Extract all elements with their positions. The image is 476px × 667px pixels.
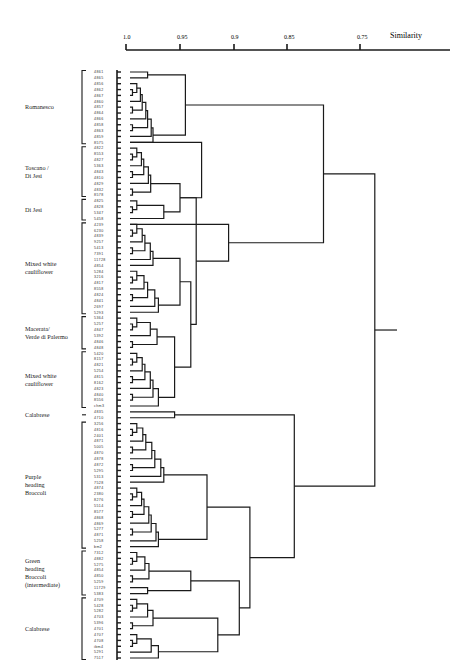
group-label: Purple: [25, 473, 41, 480]
leaf-label: 5396: [94, 621, 104, 625]
leaf-label: 5005: [94, 445, 104, 449]
group-label: Romanesco: [25, 103, 54, 110]
tree-branch: [130, 72, 148, 78]
leaf-label: 4869: [94, 522, 104, 526]
leaf-label: 6230: [94, 229, 104, 233]
leaf-label: 4703: [94, 615, 104, 619]
leaf-label: 5383: [94, 592, 104, 596]
axis-title: Similarity: [390, 31, 422, 40]
tree-branch: [130, 599, 137, 608]
group-bracket: [82, 317, 86, 349]
tree-branch: [130, 189, 132, 195]
leaf-label: 2401: [94, 434, 104, 438]
tree-branch: [130, 512, 132, 518]
tree-branch: [130, 529, 132, 535]
group-label: Calabrese: [25, 625, 50, 632]
leaf-label: 5347: [94, 211, 104, 215]
tree-branch: [132, 564, 148, 579]
group-label: heading: [25, 481, 45, 488]
leaf-label: 4862: [94, 88, 104, 92]
leaf-label: 4864: [94, 111, 104, 115]
axis-tick-label: 0.75: [357, 34, 368, 40]
leaf-label: 4857: [94, 105, 104, 109]
leaf-label: chm3: [94, 404, 104, 408]
leaf-label: 4824: [94, 293, 104, 297]
tree-branch: [132, 364, 144, 379]
tree-branch: [130, 588, 148, 594]
tree-branch: [130, 639, 151, 652]
tree-branch: [148, 75, 186, 135]
tree-branch: [130, 553, 137, 562]
leaf-label: 5364: [94, 316, 104, 320]
leaf-label: 4816: [94, 428, 104, 432]
group-brackets: RomanescoToscano /Di JesiDi JesiMixed wh…: [25, 71, 86, 660]
leaf-label: 2697: [94, 305, 104, 309]
tree-branch: [185, 105, 323, 243]
leaf-label: 5458: [94, 217, 104, 221]
group-label: cauliflower: [25, 268, 53, 275]
tree-branch: [151, 184, 180, 212]
group-bracket: [82, 551, 86, 595]
tree-branch: [191, 581, 240, 635]
leaf-label: 4866: [94, 117, 104, 121]
leaf-label: 4872: [94, 463, 104, 467]
tree-branch: [130, 148, 137, 157]
leaf-label: 5257: [94, 322, 104, 326]
leaf-label: 5284: [94, 270, 104, 274]
group-bracket: [82, 199, 86, 220]
group-label: Toscano /: [25, 164, 49, 171]
group-label: Mixed white: [25, 260, 57, 267]
leaf-label: 5313: [94, 475, 104, 479]
leaf-label: 4870: [94, 451, 104, 455]
tree-branch: [130, 623, 132, 629]
group-label: Mixed white: [25, 372, 57, 379]
leaf-label: 4825: [94, 199, 104, 203]
tree-branch: [130, 207, 132, 213]
group-label: Verde di Palermo: [25, 333, 68, 340]
leaf-label: 4709: [94, 598, 104, 602]
tree-branch: [130, 394, 132, 400]
tree-branch: [130, 84, 137, 93]
leaf-label: 4878: [94, 457, 104, 461]
axis-tick-label: 1.0: [123, 34, 131, 40]
leaf-label: 5514: [94, 504, 104, 508]
leaf-label: 4821: [94, 363, 104, 367]
tree-branch: [130, 201, 137, 210]
tree-branch: [132, 235, 144, 250]
tree-branch: [130, 90, 132, 96]
tree-branch: [130, 605, 132, 611]
leaf-label: 5259: [94, 580, 104, 584]
group-label: Broccoli: [25, 573, 47, 580]
tree-branch: [157, 337, 175, 398]
tree-branch: [130, 271, 137, 280]
leaf-label: 4828: [94, 205, 104, 209]
tree-branch: [130, 558, 132, 564]
tree-branch: [132, 159, 143, 174]
leaf-label: 4708: [94, 639, 104, 643]
leaf-label: 4843: [94, 170, 104, 174]
leaf-label: 4815: [94, 375, 104, 379]
tree-branch: [130, 342, 132, 348]
leaf-label: 4823: [94, 387, 104, 391]
leaf-label: 4817: [94, 281, 104, 285]
leaf-label: 4822: [94, 146, 104, 150]
leaf-label: 5363: [94, 164, 104, 168]
leaf-label: 4868: [94, 516, 104, 520]
leaf-label: 5413: [94, 246, 104, 250]
tree-branch: [153, 618, 218, 652]
leaf-label: 8162: [94, 381, 104, 385]
tree-branch: [132, 435, 145, 450]
leaf-label: 5282: [94, 609, 104, 613]
leaf-label: 4854: [94, 568, 104, 572]
tree-branch: [130, 412, 175, 418]
leaf-label: 4710: [94, 416, 104, 420]
leaf-label: 4810: [94, 176, 104, 180]
tree-branch: [130, 205, 164, 218]
tree-branch: [130, 107, 132, 113]
leaf-label: 4839: [94, 234, 104, 238]
tree-branch: [132, 329, 157, 344]
tree-branch: [130, 142, 202, 197]
tree-branch: [130, 154, 132, 160]
group-bracket: [82, 598, 86, 660]
tree-branch: [130, 318, 137, 327]
